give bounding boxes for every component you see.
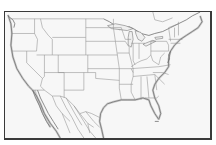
land-area [5, 12, 210, 138]
us-outline-map[interactable] [5, 12, 210, 138]
map-frame [4, 11, 212, 140]
